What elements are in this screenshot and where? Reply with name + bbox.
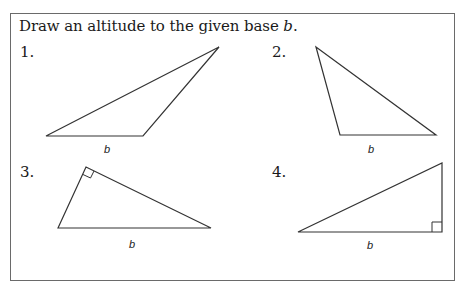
problem-1-base-label: b (104, 143, 110, 155)
triangle-figures (0, 0, 464, 294)
triangle-1 (46, 47, 219, 136)
problem-2-base-label: b (368, 143, 374, 155)
triangle-2 (316, 47, 436, 135)
problem-3-base-label: b (129, 238, 135, 250)
right-angle-mark-4 (432, 222, 442, 232)
right-angle-mark-3 (83, 171, 94, 178)
triangle-3 (58, 167, 211, 228)
triangle-4 (298, 163, 442, 232)
problem-4-base-label: b (367, 239, 373, 251)
